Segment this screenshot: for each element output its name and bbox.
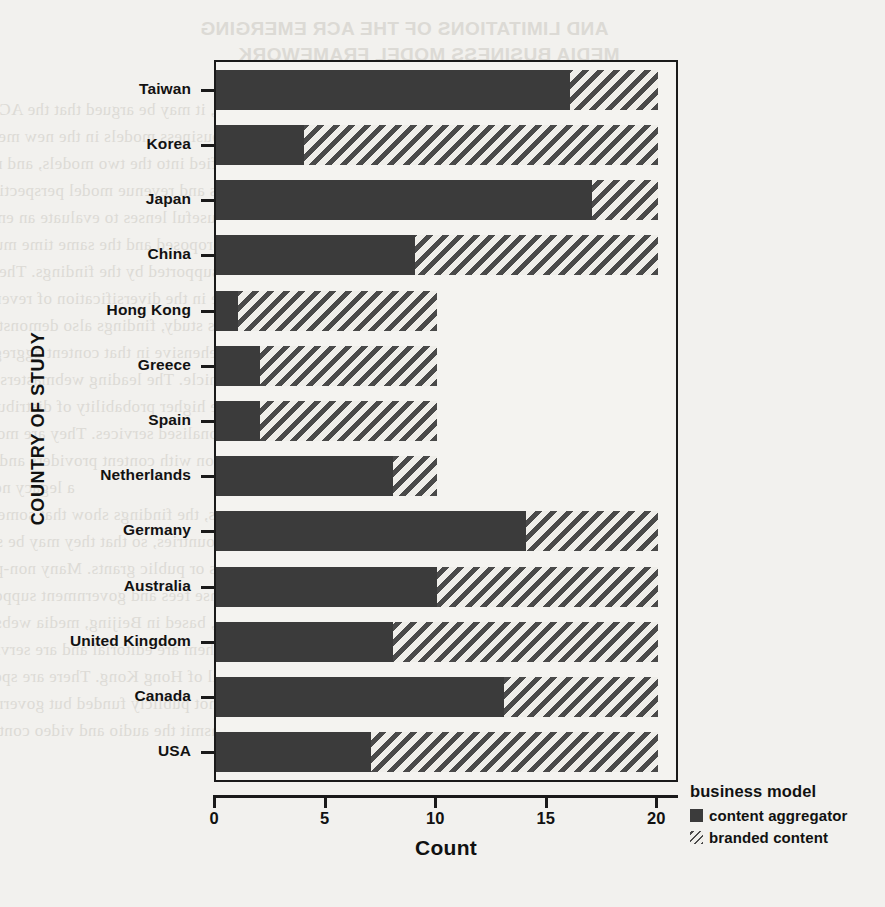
bar-segment-branded-content <box>371 732 659 772</box>
x-axis-tick-label: 20 <box>647 809 665 828</box>
x-axis-tick <box>434 795 437 808</box>
legend-item-label: branded content <box>709 829 828 846</box>
y-axis-tick-label: Spain <box>148 411 191 429</box>
bar-segment-content-aggregator <box>216 677 504 717</box>
y-axis-tick-label: Netherlands <box>100 466 191 484</box>
y-axis-tick <box>201 254 214 257</box>
y-axis-tick-label: Australia <box>124 577 191 595</box>
bar-segment-branded-content <box>504 677 659 717</box>
bar-segment-branded-content <box>415 235 658 275</box>
y-axis-tick-label: United Kingdom <box>70 632 191 650</box>
legend: business model content aggregator brande… <box>690 782 880 851</box>
x-axis-line <box>214 795 678 798</box>
y-axis-tick-label: Greece <box>138 356 191 374</box>
bar-segment-branded-content <box>526 511 659 551</box>
bar-row <box>216 125 658 165</box>
y-axis-tick <box>201 310 214 313</box>
x-axis-tick-label: 5 <box>320 809 329 828</box>
bar-row <box>216 732 658 772</box>
bar-segment-branded-content <box>260 346 437 386</box>
bar-row <box>216 622 658 662</box>
bar-segment-branded-content <box>393 456 437 496</box>
bar-segment-branded-content <box>592 180 658 220</box>
bar-segment-content-aggregator <box>216 180 592 220</box>
x-axis-title: Count <box>214 836 678 860</box>
y-axis-tick <box>201 751 214 754</box>
bar-segment-content-aggregator <box>216 456 393 496</box>
bar-segment-content-aggregator <box>216 511 526 551</box>
bar-row <box>216 70 658 110</box>
y-axis-tick-label: Hong Kong <box>107 301 191 319</box>
y-axis-tick-label: USA <box>158 742 191 760</box>
y-axis-tick <box>201 365 214 368</box>
y-axis-tick-label: Korea <box>147 135 191 153</box>
x-axis-tick-label: 10 <box>426 809 444 828</box>
legend-item-content-aggregator[interactable]: content aggregator <box>690 807 880 824</box>
hatched-square-icon <box>690 831 703 844</box>
bar-segment-content-aggregator <box>216 235 415 275</box>
bar-segment-branded-content <box>393 622 658 662</box>
stacked-bar-chart: TaiwanKoreaJapanChinaHong KongGreeceSpai… <box>0 0 885 907</box>
bar-segment-branded-content <box>260 401 437 441</box>
bar-segment-content-aggregator <box>216 291 238 331</box>
bar-row <box>216 677 658 717</box>
bar-segment-branded-content <box>437 567 658 607</box>
y-axis-title: COUNTRY OF STUDY <box>28 279 49 579</box>
y-axis-tick <box>201 696 214 699</box>
bar-row <box>216 401 437 441</box>
y-axis-tick <box>201 89 214 92</box>
bar-row <box>216 511 658 551</box>
legend-item-label: content aggregator <box>709 807 847 824</box>
y-axis-tick <box>201 530 214 533</box>
x-axis-tick-label: 0 <box>209 809 218 828</box>
y-axis-tick <box>201 641 214 644</box>
y-axis-tick <box>201 420 214 423</box>
bar-segment-content-aggregator <box>216 401 260 441</box>
solid-square-icon <box>690 809 703 822</box>
bar-row <box>216 567 658 607</box>
bar-segment-branded-content <box>570 70 658 110</box>
y-axis-tick-label: Japan <box>146 190 191 208</box>
bar-row <box>216 346 437 386</box>
x-axis-tick <box>655 795 658 808</box>
x-axis-tick <box>324 795 327 808</box>
bar-segment-content-aggregator <box>216 125 304 165</box>
y-axis-tick <box>201 144 214 147</box>
bars-layer <box>216 62 676 780</box>
bar-segment-content-aggregator <box>216 732 371 772</box>
bar-segment-content-aggregator <box>216 622 393 662</box>
bar-segment-content-aggregator <box>216 346 260 386</box>
bar-segment-content-aggregator <box>216 70 570 110</box>
y-axis-tick-label: Canada <box>134 687 191 705</box>
bar-row <box>216 180 658 220</box>
y-axis-tick-label: Taiwan <box>139 80 191 98</box>
legend-title: business model <box>690 782 880 801</box>
bar-segment-branded-content <box>304 125 658 165</box>
bar-segment-content-aggregator <box>216 567 437 607</box>
y-axis-tick-label: China <box>147 245 191 263</box>
y-axis-tick <box>201 199 214 202</box>
legend-item-branded-content[interactable]: branded content <box>690 829 880 846</box>
y-axis-tick <box>201 586 214 589</box>
x-axis-tick <box>545 795 548 808</box>
x-axis-tick-label: 15 <box>537 809 555 828</box>
bar-row <box>216 235 658 275</box>
x-axis-tick <box>213 795 216 808</box>
bar-row <box>216 291 437 331</box>
y-axis-tick-label: Germany <box>123 521 191 539</box>
y-axis-tick <box>201 475 214 478</box>
bar-row <box>216 456 437 496</box>
bar-segment-branded-content <box>238 291 437 331</box>
